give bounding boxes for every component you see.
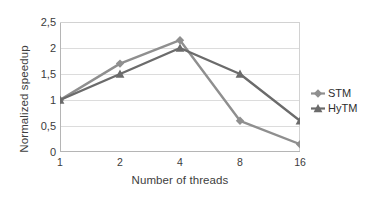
y-tick-label: 1 bbox=[4, 94, 56, 106]
x-axis-tick-labels: 124816 bbox=[60, 156, 300, 172]
legend-item-label: HyTM bbox=[328, 103, 357, 114]
legend-item-label: STM bbox=[328, 88, 351, 99]
x-tick-label: 16 bbox=[294, 156, 306, 168]
x-tick-label: 2 bbox=[117, 156, 123, 168]
data-series-group bbox=[60, 36, 300, 148]
y-tick-label: 0,5 bbox=[4, 120, 56, 132]
legend-item-stm[interactable]: STM bbox=[311, 86, 373, 101]
x-axis-title: Number of threads bbox=[60, 174, 300, 186]
legend-marker-icon bbox=[311, 88, 325, 99]
data-point-marker bbox=[314, 89, 322, 97]
y-tick-label: 2,5 bbox=[4, 16, 56, 28]
data-point-marker bbox=[296, 140, 300, 148]
y-tick-label: 0 bbox=[4, 146, 56, 158]
y-axis-tick-labels: 00,511,522,5 bbox=[0, 0, 56, 198]
series-line bbox=[60, 48, 300, 121]
chart-legend: STMHyTM bbox=[311, 86, 373, 116]
plot-svg bbox=[60, 22, 300, 152]
x-tick-label: 8 bbox=[237, 156, 243, 168]
x-tick-label: 1 bbox=[57, 156, 63, 168]
speedup-line-chart: Normalized speedup 00,511,522,5 124816 N… bbox=[0, 0, 375, 198]
legend-item-hytm[interactable]: HyTM bbox=[311, 101, 373, 116]
series-hytm bbox=[60, 44, 300, 125]
plot-area bbox=[60, 22, 300, 152]
y-tick-label: 1,5 bbox=[4, 68, 56, 80]
y-tick-label: 2 bbox=[4, 42, 56, 54]
x-tick-label: 4 bbox=[177, 156, 183, 168]
legend-marker-icon bbox=[311, 103, 325, 114]
